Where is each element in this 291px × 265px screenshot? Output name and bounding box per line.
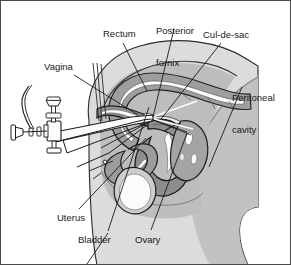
label-posterior-fornix-line2: fornix — [156, 58, 194, 69]
luer-connector — [11, 125, 23, 140]
label-peritoneal-cavity-line1: Peritoneal — [232, 93, 275, 104]
label-vagina: Vagina — [44, 62, 73, 73]
figure-container: Posterior fornix Cul-de-sac Rectum Vagin… — [0, 0, 291, 265]
bladder-structure — [114, 167, 156, 213]
label-posterior-fornix-line1: Posterior — [156, 26, 194, 37]
label-uterus: Uterus — [57, 213, 85, 224]
valve-handle-lower — [47, 141, 61, 153]
label-ovary: Ovary — [135, 235, 160, 246]
label-posterior-fornix: Posterior fornix — [156, 5, 194, 89]
label-bladder: Bladder — [78, 235, 111, 246]
suction-tubing — [22, 85, 34, 129]
port-collars — [23, 127, 47, 136]
label-rectum: Rectum — [103, 29, 136, 40]
label-peritoneal-cavity-line2: cavity — [232, 125, 275, 136]
valve-handle-upper — [46, 97, 61, 122]
label-cul-de-sac: Cul-de-sac — [203, 30, 249, 41]
label-peritoneal-cavity: Peritoneal cavity — [232, 72, 275, 156]
